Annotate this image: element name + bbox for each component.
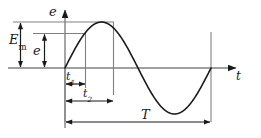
sinusoidal-emf-figure: e t Em e t1 t2 T: [0, 0, 261, 138]
t2-label: t2: [83, 88, 92, 99]
amplitude-subscript: m: [19, 42, 27, 52]
t2-subscript: 2: [87, 95, 92, 104]
amplitude-label: Em: [9, 33, 27, 46]
period-label: T: [141, 108, 150, 121]
instantaneous-value-label: e: [33, 44, 41, 57]
amplitude-symbol: E: [9, 32, 19, 47]
t1-label: t1: [66, 71, 75, 82]
e-axis-label: e: [49, 5, 57, 18]
waveform-diagram: [0, 0, 261, 138]
t1-subscript: 1: [70, 78, 75, 87]
t-axis-label: t: [236, 70, 241, 82]
